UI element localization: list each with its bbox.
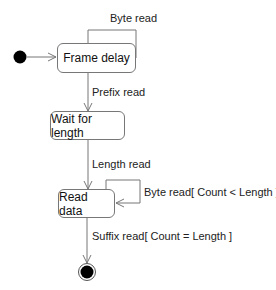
transition-label-byte-read-count: Byte read[ Count < Length ] [144, 186, 276, 199]
transition-label-prefix-read: Prefix read [92, 86, 145, 99]
diagram-canvas [0, 0, 276, 290]
transition-label-length-read: Length read [92, 158, 151, 171]
state-wait-for-length: Wait for length [50, 111, 125, 140]
state-label: Read data [59, 190, 114, 218]
transition-label-suffix-read: Suffix read[ Count = Length ] [92, 230, 232, 243]
transition-label-byte-read: Byte read [110, 12, 157, 25]
final-state-node [81, 266, 94, 279]
state-read-data: Read data [58, 189, 115, 218]
state-frame-delay: Frame delay [57, 43, 136, 73]
state-label: Wait for length [51, 112, 124, 140]
state-label: Frame delay [63, 51, 130, 65]
initial-state-node [14, 51, 27, 64]
